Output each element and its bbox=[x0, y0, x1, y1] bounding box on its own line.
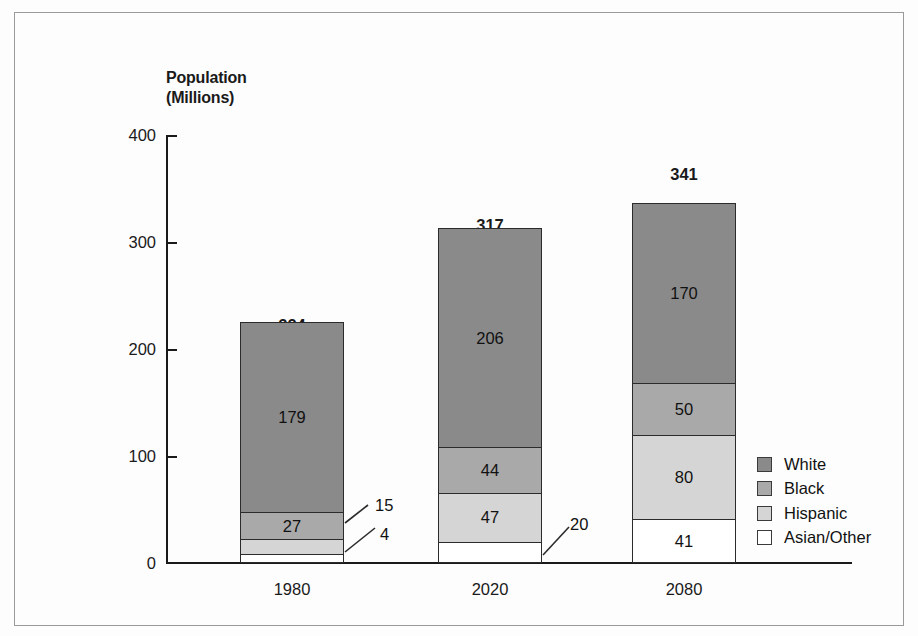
callout-1980-hispanic: 15 bbox=[375, 496, 393, 515]
legend-item-white[interactable]: White bbox=[757, 452, 871, 477]
bar-1980-segment-asian-other[interactable] bbox=[240, 554, 344, 563]
bar-2080-segment-black[interactable]: 50 bbox=[632, 383, 736, 437]
y-axis-label-300: 300 bbox=[100, 233, 156, 252]
y-axis-tick-400 bbox=[166, 135, 177, 137]
bar-2080-value-asian-other: 41 bbox=[675, 532, 693, 551]
bar-2080-segment-white[interactable]: 170 bbox=[632, 203, 736, 385]
bar-2080-value-white: 170 bbox=[670, 284, 698, 303]
y-axis-title-line1: Population bbox=[166, 68, 247, 87]
callout-2020-asian-other: 20 bbox=[570, 515, 588, 534]
legend-item-asian-other[interactable]: Asian/Other bbox=[757, 526, 871, 551]
bar-2080-value-hispanic: 80 bbox=[675, 468, 693, 487]
bar-1980-value-white: 179 bbox=[278, 408, 306, 427]
legend-swatch-black-icon bbox=[757, 481, 772, 496]
bar-2020-value-black: 44 bbox=[481, 461, 499, 480]
x-axis-label-2020: 2020 bbox=[420, 580, 560, 599]
legend-swatch-asian-other-icon bbox=[757, 530, 772, 545]
callout-1980-asian-other: 4 bbox=[380, 525, 389, 544]
y-axis-title-line2: (Millions) bbox=[166, 88, 234, 107]
bar-2020-segment-hispanic[interactable]: 47 bbox=[438, 493, 542, 543]
legend-item-hispanic[interactable]: Hispanic bbox=[757, 501, 871, 526]
y-axis-label-100: 100 bbox=[100, 447, 156, 466]
legend: White Black Hispanic Asian/Other bbox=[757, 452, 871, 550]
bar-2020-segment-asian-other[interactable] bbox=[438, 542, 542, 563]
x-axis-label-1980: 1980 bbox=[222, 580, 362, 599]
bar-2020-segment-black[interactable]: 44 bbox=[438, 447, 542, 494]
y-axis-label-400: 400 bbox=[100, 126, 156, 145]
legend-item-black[interactable]: Black bbox=[757, 477, 871, 502]
x-axis-label-2080: 2080 bbox=[614, 580, 754, 599]
bar-2020[interactable]: 206 44 47 bbox=[438, 230, 542, 563]
bar-2080-segment-hispanic[interactable]: 80 bbox=[632, 435, 736, 521]
figure-root: Population (Millions) 400 300 200 100 0 … bbox=[0, 0, 918, 636]
legend-label-white: White bbox=[784, 455, 826, 474]
bar-1980-segment-black[interactable]: 27 bbox=[240, 512, 344, 541]
bar-2020-value-white: 206 bbox=[476, 329, 504, 348]
y-axis-label-200: 200 bbox=[100, 340, 156, 359]
bar-2020-value-hispanic: 47 bbox=[481, 508, 499, 527]
legend-label-black: Black bbox=[784, 479, 824, 498]
y-axis-tick-300 bbox=[166, 242, 177, 244]
bar-2080-segment-asian-other[interactable]: 41 bbox=[632, 519, 736, 563]
bar-2080[interactable]: 170 50 80 41 bbox=[632, 204, 736, 563]
legend-swatch-white-icon bbox=[757, 457, 772, 472]
bar-1980-value-black: 27 bbox=[283, 517, 301, 536]
legend-swatch-hispanic-icon bbox=[757, 506, 772, 521]
bar-total-2080: 341 bbox=[632, 165, 736, 184]
bar-1980-segment-white[interactable]: 179 bbox=[240, 322, 344, 514]
y-axis-tick-200 bbox=[166, 349, 177, 351]
legend-label-asian-other: Asian/Other bbox=[784, 528, 871, 547]
y-axis-tick-100 bbox=[166, 456, 177, 458]
bar-1980[interactable]: 179 27 bbox=[240, 323, 344, 563]
legend-label-hispanic: Hispanic bbox=[784, 504, 847, 523]
y-axis-label-0: 0 bbox=[100, 554, 156, 573]
bar-2080-value-black: 50 bbox=[675, 400, 693, 419]
bar-2020-segment-white[interactable]: 206 bbox=[438, 228, 542, 448]
plot-area: Population (Millions) 400 300 200 100 0 … bbox=[0, 0, 918, 636]
